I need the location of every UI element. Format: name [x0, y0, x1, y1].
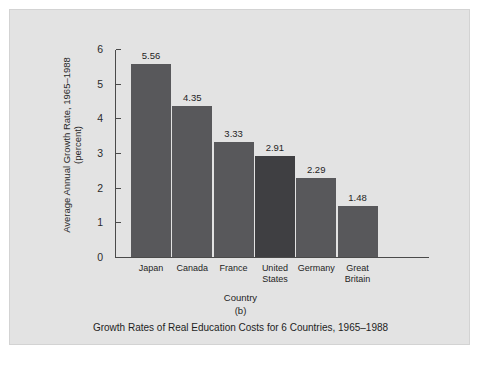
x-category-label-line: States — [247, 274, 303, 285]
x-axis-line — [115, 257, 429, 258]
x-axis-title: Country — [10, 292, 471, 303]
bar[interactable] — [296, 178, 336, 257]
plot-area: 0123456 5.564.353.332.912.291.48 JapanCa… — [106, 48, 426, 260]
bar-value-label: 3.33 — [208, 129, 260, 139]
bar[interactable] — [214, 142, 254, 257]
y-axis-title-line2: (percent) — [72, 126, 83, 164]
y-tick-label: 4 — [83, 113, 103, 124]
x-category-label: GreatBritain — [330, 263, 386, 285]
y-tick — [116, 49, 121, 50]
y-tick — [116, 84, 121, 85]
y-axis-title-line1: Average Annual Growth Rate, 1965–1988 — [61, 57, 72, 233]
bar-value-label: 5.56 — [125, 51, 177, 61]
y-tick-label: 5 — [83, 79, 103, 90]
figure-caption: Growth Rates of Real Education Costs for… — [10, 322, 471, 333]
bar-value-label: 2.29 — [290, 165, 342, 175]
x-category-label-line: Britain — [330, 274, 386, 285]
y-axis-line — [115, 50, 116, 258]
y-tick — [116, 257, 121, 258]
bar-value-label: 4.35 — [166, 93, 218, 103]
bar[interactable] — [338, 206, 378, 257]
y-tick-label: 1 — [83, 217, 103, 228]
y-tick-label: 3 — [83, 148, 103, 159]
y-tick — [116, 153, 121, 154]
figure-panel: Average Annual Growth Rate, 1965–1988 (p… — [9, 9, 470, 345]
y-tick — [116, 188, 121, 189]
y-tick-label: 6 — [83, 44, 103, 55]
bar-value-label: 1.48 — [332, 193, 384, 203]
bar-value-label: 2.91 — [249, 143, 301, 153]
panel-letter: (b) — [10, 305, 471, 316]
bar[interactable] — [131, 64, 171, 257]
y-tick-label: 2 — [83, 183, 103, 194]
y-tick — [116, 222, 121, 223]
x-category-label-line: Great — [330, 263, 386, 274]
y-tick-label: 0 — [83, 252, 103, 263]
bar[interactable] — [172, 106, 212, 257]
bar[interactable] — [255, 156, 295, 257]
y-tick — [116, 118, 121, 119]
